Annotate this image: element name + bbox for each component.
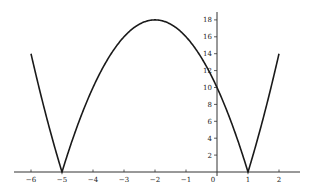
x-tick-label: −5 <box>57 176 67 184</box>
x-tick-label: −3 <box>119 176 129 184</box>
y-tick-label: 10 <box>203 84 212 92</box>
function-curve <box>31 20 279 172</box>
y-axis: 24681012141618 <box>203 12 217 176</box>
x-axis: −6−5−4−3−2−1012 <box>14 170 300 185</box>
function-plot: −6−5−4−3−2−1012 24681012141618 <box>0 0 317 196</box>
x-tick-label: −6 <box>26 176 37 184</box>
y-tick-label: 4 <box>208 135 213 143</box>
x-tick-label: 0 <box>211 176 215 184</box>
x-tick-label: 1 <box>246 176 250 184</box>
y-tick-label: 6 <box>208 118 213 126</box>
y-tick-label: 16 <box>203 33 212 41</box>
curve-series <box>31 20 279 172</box>
x-tick-label: −1 <box>181 176 191 184</box>
y-tick-label: 18 <box>203 16 212 24</box>
x-tick-label: −4 <box>88 176 99 184</box>
x-tick-label: 2 <box>277 176 281 184</box>
x-tick-label: −2 <box>150 176 160 184</box>
y-tick-label: 8 <box>208 101 212 109</box>
y-tick-label: 14 <box>203 50 212 58</box>
y-tick-label: 2 <box>208 152 212 160</box>
